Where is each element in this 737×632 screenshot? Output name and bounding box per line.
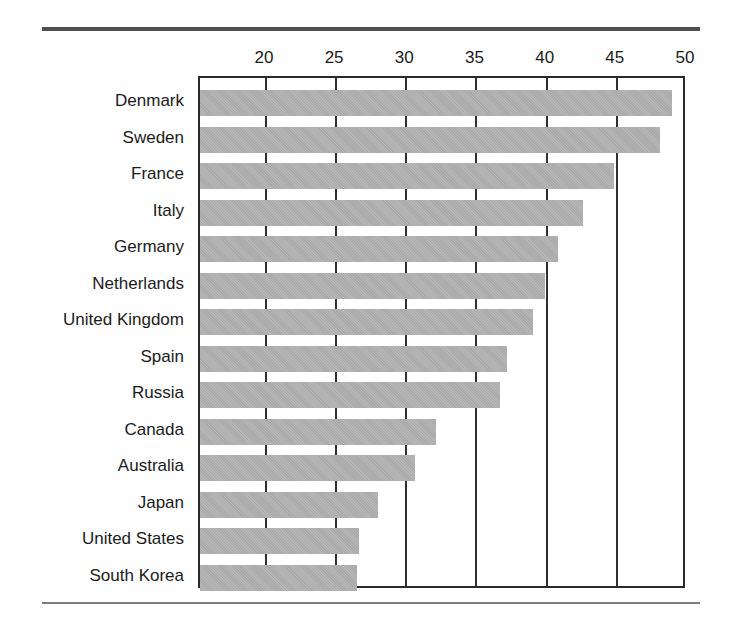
category-label-japan: Japan: [138, 490, 184, 516]
x-tick-label-40: 40: [535, 48, 554, 68]
x-tick-label-30: 30: [395, 48, 414, 68]
category-label-australia: Australia: [118, 453, 184, 479]
x-tick-label-35: 35: [465, 48, 484, 68]
bar: [200, 90, 672, 116]
bottom-rule: [42, 602, 700, 604]
category-label-spain: Spain: [141, 344, 184, 370]
bar: [200, 455, 415, 481]
top-rule: [42, 27, 700, 31]
category-label-united-states: United States: [82, 526, 184, 552]
bar-series: [200, 78, 683, 586]
plot-area: [198, 76, 685, 588]
bar: [200, 309, 533, 335]
category-label-germany: Germany: [114, 234, 184, 260]
bar: [200, 127, 660, 153]
category-label-denmark: Denmark: [115, 88, 184, 114]
x-axis-tick-labels: 20253035404550: [0, 48, 737, 70]
bar: [200, 492, 378, 518]
x-tick-label-50: 50: [676, 48, 695, 68]
bar: [200, 200, 583, 226]
bar: [200, 565, 357, 591]
bar: [200, 163, 614, 189]
category-label-canada: Canada: [124, 417, 184, 443]
category-label-sweden: Sweden: [123, 125, 184, 151]
chart-figure: 20253035404550 DenmarkSwedenFranceItalyG…: [0, 0, 737, 632]
bar: [200, 382, 500, 408]
bar: [200, 273, 545, 299]
category-label-france: France: [131, 161, 184, 187]
category-label-netherlands: Netherlands: [92, 271, 184, 297]
bar: [200, 346, 507, 372]
x-tick-label-20: 20: [254, 48, 273, 68]
y-axis-category-labels: DenmarkSwedenFranceItalyGermanyNetherlan…: [0, 76, 192, 588]
x-tick-label-25: 25: [325, 48, 344, 68]
bar: [200, 528, 359, 554]
bar: [200, 419, 436, 445]
category-label-united-kingdom: United Kingdom: [63, 307, 184, 333]
category-label-italy: Italy: [153, 198, 184, 224]
x-tick-label-45: 45: [605, 48, 624, 68]
bar: [200, 236, 558, 262]
category-label-russia: Russia: [132, 380, 184, 406]
category-label-south-korea: South Korea: [89, 563, 184, 589]
